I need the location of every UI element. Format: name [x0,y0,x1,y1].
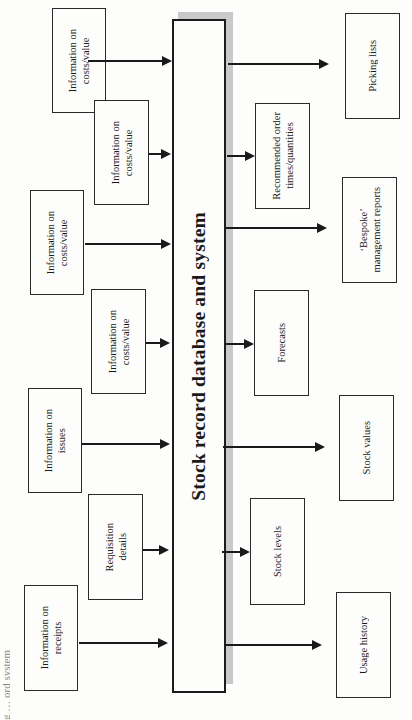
arrow-right-icon [85,243,169,245]
output-label: Stock levels [271,526,284,577]
output-box-forecasts: Forecasts [254,290,309,396]
output-box-picking-lists: Picking lists [345,13,400,119]
input-box-receipts: Information on receipts [24,585,78,691]
arrow-right-icon [143,549,167,551]
stock-record-system-box: Stock record database and system [172,19,226,693]
input-label: Information on costs/value [106,310,132,373]
arrow-right-icon [225,644,320,646]
input-label: Information on costs/value [44,211,70,274]
output-box-bespoke-reports: ‘Bespoke’ management reports [342,177,397,283]
arrow-right-icon [223,446,323,448]
input-box-issues: Information on issues [28,388,82,493]
input-box-costs-value-2: Information on costs/value [94,100,149,205]
output-label: ‘Bespoke’ management reports [357,187,383,272]
input-box-costs-value-3: Information on costs/value [30,190,84,295]
output-box-stock-values: Stock values [339,395,394,501]
arrow-right-icon [226,227,325,229]
output-box-recommended-order: Recommended order times/quantities [255,103,310,209]
arrow-right-icon [88,60,170,62]
input-label: Information on issues [42,409,68,472]
output-label: Usage history [357,616,370,674]
arrow-right-icon [82,443,168,445]
input-box-costs-value-4: Information on costs/value [91,289,146,394]
figure-caption-fragment: g … ord system [0,540,10,720]
output-label: Forecasts [275,323,288,363]
output-label: Stock values [360,421,373,474]
stock-record-system-label: Stock record database and system [188,212,210,501]
arrow-right-icon [228,63,327,65]
output-label: Picking lists [366,40,379,92]
output-box-stock-levels: Stock levels [250,498,305,605]
output-box-usage-history: Usage history [336,592,391,698]
arrow-right-icon [222,551,248,553]
input-label: Information on receipts [38,606,64,669]
arrow-right-icon [225,343,252,345]
input-label: Information on costs/value [109,121,135,184]
input-label: Requisition details [103,523,129,571]
arrow-right-icon [227,155,253,157]
arrow-right-icon [149,153,169,155]
arrow-right-icon [146,342,168,344]
arrow-right-icon [79,642,166,644]
input-box-requisition-details: Requisition details [88,494,143,600]
output-label: Recommended order times/quantities [270,112,296,200]
